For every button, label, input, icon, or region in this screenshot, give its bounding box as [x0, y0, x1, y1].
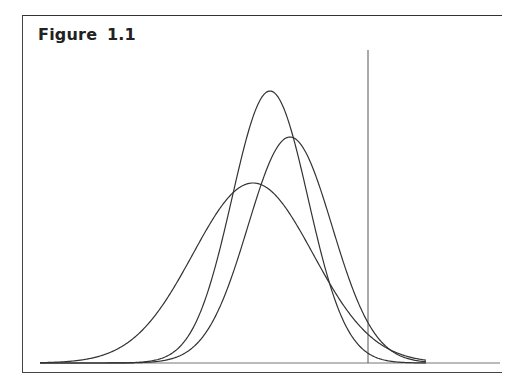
distribution-plot [0, 0, 524, 389]
